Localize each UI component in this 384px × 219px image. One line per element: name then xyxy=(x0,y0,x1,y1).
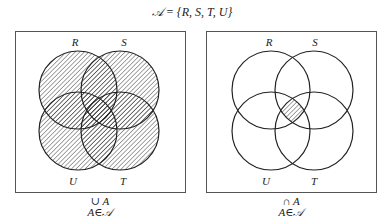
circle-t xyxy=(275,92,353,170)
label-r: R xyxy=(71,36,79,48)
intersection-caption: ∩ A A∈𝒜 xyxy=(261,196,321,218)
venn-diagrams: R S U T R S U T xyxy=(0,0,384,219)
intersection-index: A∈𝒜 xyxy=(261,207,321,218)
label-r: R xyxy=(265,36,273,48)
label-u: U xyxy=(69,175,78,187)
label-t: T xyxy=(120,175,127,187)
union-panel: R S U T xyxy=(16,32,186,193)
union-index: A∈𝒜 xyxy=(70,207,130,218)
circle-s xyxy=(275,51,353,129)
label-u: U xyxy=(262,175,271,187)
label-t: T xyxy=(311,175,318,187)
label-s: S xyxy=(121,36,127,48)
circle-u xyxy=(232,92,310,170)
label-s: S xyxy=(312,36,318,48)
union-shading xyxy=(39,51,159,170)
circle-r xyxy=(232,51,310,129)
intersection-panel: R S U T xyxy=(207,32,377,193)
union-caption: ∪ A A∈𝒜 xyxy=(70,196,130,218)
